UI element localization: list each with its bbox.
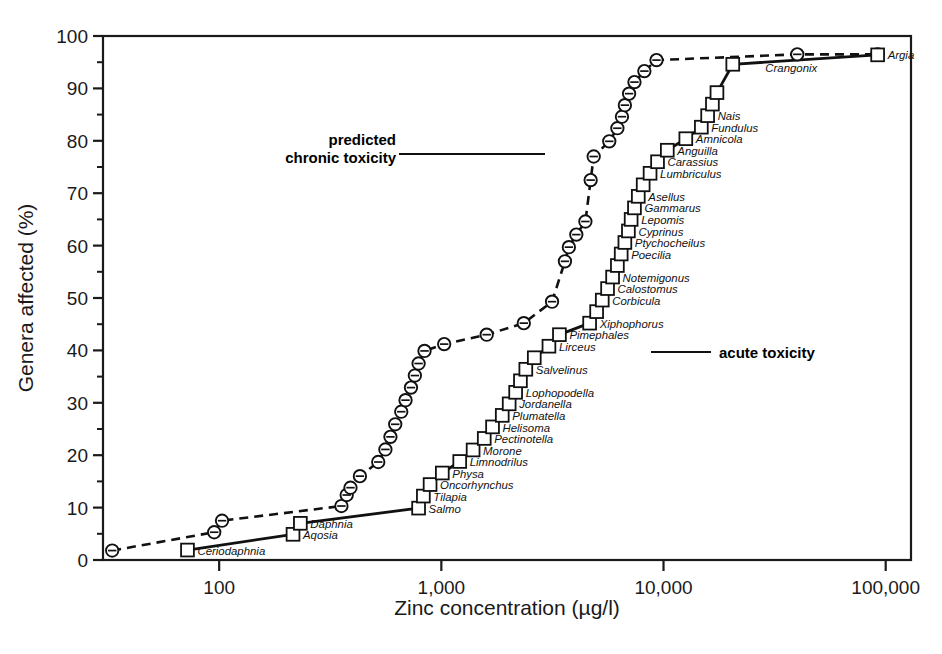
species-label: Aqosia xyxy=(302,529,338,541)
y-tick-label: 40 xyxy=(67,340,88,361)
species-label: Ceriodaphnia xyxy=(197,545,265,557)
acute-marker xyxy=(679,132,692,145)
species-label: Plumatella xyxy=(512,410,565,422)
x-axis-title: Zinc concentration (µg/l) xyxy=(394,596,620,619)
species-label: Poecilia xyxy=(631,249,671,261)
acute-marker xyxy=(528,351,541,364)
acute-toxicity-curve xyxy=(187,55,877,550)
species-label: Calostomus xyxy=(618,283,678,295)
acute-marker xyxy=(553,328,566,341)
acute-annotation-label: acute toxicity xyxy=(719,344,816,361)
species-label: Limnodrilus xyxy=(470,456,529,468)
species-label: Oncorhynchus xyxy=(440,479,514,491)
y-tick-label: 50 xyxy=(67,288,88,309)
species-label: Ptychocheilus xyxy=(635,237,706,249)
acute-marker xyxy=(453,455,466,468)
x-tick-label: 10,000 xyxy=(634,577,692,598)
y-tick-label: 20 xyxy=(67,445,88,466)
species-label: Lepomis xyxy=(641,214,684,226)
x-axis-tick-labels: 1001,00010,000100,000 xyxy=(203,577,920,598)
species-label: Helisoma xyxy=(503,422,550,434)
x-tick-label: 1,000 xyxy=(418,577,466,598)
species-label: Jordanella xyxy=(518,398,572,410)
zinc-toxicity-chart: 0102030405060708090100 1001,00010,000100… xyxy=(0,0,942,654)
species-label: Asellus xyxy=(647,191,685,203)
species-label: Pectinotella xyxy=(494,433,553,445)
y-tick-label: 0 xyxy=(77,550,88,571)
species-label: Pimephales xyxy=(569,329,629,341)
species-label: Notemigonus xyxy=(623,272,690,284)
species-label: Carassius xyxy=(668,156,719,168)
species-label: Crangonix xyxy=(765,62,818,74)
species-label: Fundulus xyxy=(711,122,758,134)
species-label: Argia xyxy=(887,49,915,61)
species-label: Salmo xyxy=(429,503,461,515)
y-tick-label: 90 xyxy=(67,78,88,99)
species-label: Lirceus xyxy=(559,341,596,353)
figure-container: 0102030405060708090100 1001,00010,000100… xyxy=(0,0,942,654)
acute-marker xyxy=(661,144,674,157)
species-label: Lumbriculus xyxy=(660,168,722,180)
species-label: Lophopodella xyxy=(526,387,594,399)
y-axis-ticks xyxy=(93,36,103,560)
acute-marker xyxy=(436,467,449,480)
y-axis-title: Genera affected (%) xyxy=(14,204,37,393)
species-label: Corbicula xyxy=(612,295,660,307)
acute-marker xyxy=(412,502,425,515)
species-label: Xiphophorus xyxy=(599,318,664,330)
species-label: Morone xyxy=(483,445,522,457)
acute-marker xyxy=(726,58,739,71)
y-tick-label: 100 xyxy=(56,26,88,47)
species-label: Cyprinus xyxy=(638,226,683,238)
acute-marker xyxy=(294,517,307,530)
acute-marker xyxy=(424,478,437,491)
species-label: Daphnia xyxy=(310,518,352,530)
acute-marker xyxy=(711,86,724,99)
acute-marker xyxy=(871,48,884,61)
x-axis-ticks xyxy=(219,560,886,571)
chronic-annotation-line2: chronic toxicity xyxy=(285,149,397,166)
acute-toxicity-markers xyxy=(181,48,884,556)
species-label: Physa xyxy=(452,468,484,480)
y-tick-label: 60 xyxy=(67,236,88,257)
species-label: Tilapia xyxy=(433,491,466,503)
species-label: Nais xyxy=(718,110,741,122)
y-tick-label: 30 xyxy=(67,393,88,414)
y-axis-tick-labels: 0102030405060708090100 xyxy=(56,26,88,571)
y-tick-label: 80 xyxy=(67,131,88,152)
species-label: Gammarus xyxy=(644,202,701,214)
species-label: Amnicola xyxy=(695,133,743,145)
x-tick-label: 100,000 xyxy=(851,577,920,598)
chronic-toxicity-curve xyxy=(112,54,877,550)
species-label: Anguilla xyxy=(676,145,718,157)
y-tick-label: 10 xyxy=(67,498,88,519)
acute-marker xyxy=(181,544,194,557)
chronic-annotation-line1: predicted xyxy=(328,131,396,148)
x-tick-label: 100 xyxy=(203,577,235,598)
species-label: Salvelinus xyxy=(536,364,588,376)
y-tick-label: 70 xyxy=(67,183,88,204)
